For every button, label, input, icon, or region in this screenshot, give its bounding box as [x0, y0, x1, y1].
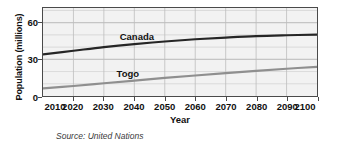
plot-area: CanadaTogo: [42, 7, 318, 97]
x-tick-label: 2100: [294, 102, 315, 112]
x-tick-label: 2080: [246, 102, 267, 112]
series-label-togo: Togo: [117, 69, 140, 79]
series-line-canada: [43, 35, 317, 55]
series-label-canada: Canada: [120, 32, 154, 42]
source-note: Source: United Nations: [56, 131, 143, 141]
series-lines: [43, 35, 317, 89]
y-tick-label: 30: [22, 55, 38, 65]
x-axis-tick-labels: 2010202020302040205020602070208020902100: [42, 97, 318, 115]
series-line-togo: [43, 67, 317, 89]
x-tick-label: 2050: [154, 102, 175, 112]
x-tick-mark: [318, 97, 319, 101]
chart-canvas: [43, 8, 317, 96]
x-tick-label: 2040: [123, 102, 144, 112]
x-tick-label: 2070: [215, 102, 236, 112]
x-tick-label: 2030: [93, 102, 114, 112]
y-axis-tick-labels: 03060: [22, 0, 38, 148]
y-tick-label: 0: [22, 93, 38, 103]
x-axis-title: Year: [42, 114, 318, 125]
x-tick-label: 2020: [62, 102, 83, 112]
x-tick-label: 2060: [185, 102, 206, 112]
minor-gridlines: [43, 10, 317, 83]
y-tick-label: 60: [22, 18, 38, 28]
population-projection-chart: Population (millions) 03060 CanadaTogo 2…: [0, 0, 341, 148]
